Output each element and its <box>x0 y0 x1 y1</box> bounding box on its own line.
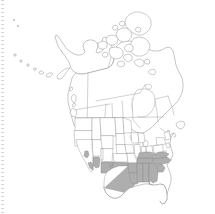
state-montana <box>100 118 116 136</box>
state-wisconsin <box>131 133 139 143</box>
state-washington <box>75 118 92 131</box>
state-idaho <box>92 118 101 140</box>
distribution-map-figure: North America distribution map <box>0 0 215 214</box>
state-tennessee-shaded <box>137 158 153 163</box>
state-mississippi-shaded <box>137 163 143 182</box>
aleutian-island-4 <box>27 64 29 66</box>
aleutian-island-5 <box>20 60 22 62</box>
state-kansas <box>113 154 128 162</box>
state-arkansas-shaded <box>128 163 137 173</box>
state-arizona-shaded <box>93 157 100 168</box>
victoria-island <box>109 47 123 59</box>
state-new-england-south <box>166 143 170 148</box>
state-south-dakota <box>116 134 125 145</box>
melville-island <box>106 35 118 45</box>
aleutian-island-6 <box>14 54 16 56</box>
state-new-york <box>156 138 166 145</box>
state-utah <box>101 149 103 160</box>
hudson-bay-north-inlet <box>145 84 152 89</box>
state-michigan <box>138 133 145 143</box>
state-north-dakota <box>115 118 124 134</box>
state-iowa <box>125 145 134 153</box>
north-america-map <box>0 0 215 214</box>
state-alabama-shaded <box>143 163 149 182</box>
aleutian-island-3 <box>33 68 36 70</box>
state-georgia-shaded <box>149 163 158 183</box>
state-kentucky-shaded <box>138 152 156 158</box>
banks-island <box>98 41 107 49</box>
state-wyoming <box>101 136 113 149</box>
